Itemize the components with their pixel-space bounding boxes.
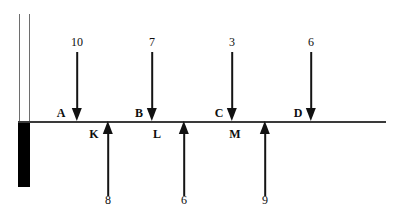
load-magnitude-k: 8 <box>105 194 111 206</box>
node-label-a: A <box>57 107 66 119</box>
wall-outline-right <box>29 14 30 121</box>
node-label-b: B <box>135 107 143 119</box>
node-label-d: D <box>294 107 303 119</box>
load-magnitude-m: 9 <box>262 194 268 206</box>
node-label-m: M <box>229 128 240 140</box>
load-magnitude-a: 10 <box>71 36 83 48</box>
load-magnitude-d: 6 <box>308 36 314 48</box>
load-magnitude-c: 3 <box>229 36 235 48</box>
node-label-l: L <box>153 128 161 140</box>
wall-fixed-support-block <box>18 121 30 187</box>
beam-diagram-canvas: 10 A 7 B 3 C 6 D K 8 L 6 M 9 <box>0 0 393 216</box>
wall-outline-left <box>19 14 20 121</box>
node-label-c: C <box>215 107 224 119</box>
load-magnitude-b: 7 <box>149 36 155 48</box>
beam-line <box>18 121 386 123</box>
load-magnitude-l: 6 <box>181 194 187 206</box>
node-label-k: K <box>89 128 98 140</box>
